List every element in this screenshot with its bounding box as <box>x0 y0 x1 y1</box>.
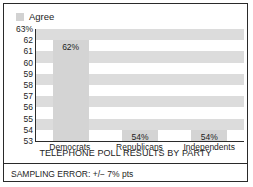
y-axis-tick-label: 62 <box>24 36 33 45</box>
bar-group[interactable]: 62% <box>53 29 89 141</box>
y-axis-tick-label: 60 <box>24 58 33 67</box>
sampling-error-note: SAMPLING ERROR: +/− 7% pts <box>11 170 133 179</box>
chart-legend: Agree <box>16 10 54 24</box>
agree-swatch-icon <box>16 13 24 21</box>
bar-group[interactable]: 54% <box>122 29 158 141</box>
bar-value-label: 54% <box>122 133 158 142</box>
y-axis-tick-label: 58 <box>24 81 33 90</box>
y-axis-tick-label: 59 <box>24 70 33 79</box>
y-axis-tick-label: 54 <box>24 126 33 135</box>
plot-area: 62%54%54% <box>35 29 244 142</box>
footer-divider <box>4 163 247 164</box>
y-axis-tick-label: 53 <box>24 137 33 146</box>
legend-item-agree-label: Agree <box>29 12 54 22</box>
y-axis-tick-label: 55 <box>24 114 33 123</box>
y-axis-tick-label: 63% <box>16 25 33 34</box>
y-axis-tick-label: 56 <box>24 103 33 112</box>
bar-value-label: 54% <box>191 133 227 142</box>
chart-frame: Agree 63%62616059585756555453 62%54%54% … <box>3 3 248 182</box>
plot-wrapper: 63%62616059585756555453 62%54%54% Democr… <box>12 29 244 147</box>
bar-series-agree: 62%54%54% <box>36 29 244 141</box>
chart-title: TELEPHONE POLL RESULTS BY PARTY <box>4 149 247 158</box>
y-axis-tick-label: 61 <box>24 47 33 56</box>
bar-group[interactable]: 54% <box>191 29 227 141</box>
y-axis-tick-label: 57 <box>24 92 33 101</box>
y-axis: 63%62616059585756555453 <box>12 29 33 141</box>
bar-democrats[interactable] <box>53 40 89 141</box>
bar-value-label: 62% <box>53 43 89 52</box>
